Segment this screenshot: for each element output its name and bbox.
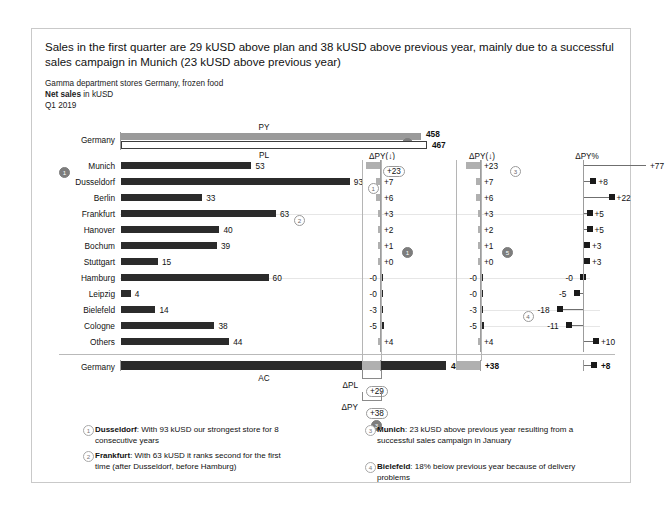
row-callout-marker-bielefeld[interactable]: 4 — [523, 305, 534, 323]
bar-actual-leipzig — [121, 290, 131, 297]
bar-actual-stuttgart — [121, 258, 158, 265]
value-actual-bielefeld: 14 — [159, 305, 168, 315]
footnote-marker-4[interactable]: 4 — [365, 462, 376, 473]
pin-dot-frankfurt — [587, 210, 593, 216]
bar-actual-bochum — [121, 242, 217, 249]
bar-actual-bielefeld — [121, 306, 155, 313]
value-variance-1-dusseldorf: +7 — [484, 177, 493, 187]
value-variance-0-berlin: +6 — [384, 193, 393, 203]
value-variance-1-cologne: -5 — [470, 321, 477, 331]
value-actual-stuttgart: 15 — [162, 257, 171, 267]
row-label-munich: Munich — [88, 161, 115, 171]
value-variance-1-stuttgart: +0 — [484, 257, 493, 267]
axis-pct-1 — [583, 176, 584, 192]
value-pct-berlin: +22 — [617, 193, 631, 203]
pin-dot-total — [591, 362, 597, 368]
delta-py-header-2: ΔPY(↓) — [469, 152, 495, 161]
total-row-label-top: Germany — [81, 135, 115, 145]
value-pct-frankfurt: +5 — [595, 209, 604, 219]
value-variance-0-leipzig: -0 — [370, 289, 377, 299]
value-variance-1-munich: +23 — [484, 161, 498, 171]
row-label-frankfurt: Frankfurt — [82, 209, 115, 219]
value-variance-0-hanover: +2 — [384, 225, 393, 235]
value-variance-0-hamburg: -0 — [370, 273, 377, 283]
axis-pct-total — [583, 360, 584, 371]
footnote-marker-3[interactable]: 3 — [365, 425, 376, 436]
connector-delta-pl-right — [381, 160, 382, 361]
bracket-delta-py — [362, 392, 382, 401]
row-label-bochum: Bochum — [85, 241, 115, 251]
value-pct-leipzig: -5 — [559, 289, 566, 299]
bar-actual-munich — [121, 162, 251, 169]
value-variance-1-frankfurt: +3 — [484, 209, 493, 219]
row-label-berlin: Berlin — [94, 193, 115, 203]
pin-dot-hanover — [587, 226, 593, 232]
value-variance-1-bochum: +1 — [484, 241, 493, 251]
bar-plan-total — [121, 141, 427, 149]
axis-pct-7 — [583, 272, 584, 288]
value-actual-frankfurt: 63 — [280, 209, 289, 219]
pin-dot-bielefeld — [557, 306, 563, 312]
chart-frame: Sales in the first quarter are 29 kUSD a… — [31, 28, 631, 483]
row-label-hanover: Hanover — [84, 225, 115, 235]
axis-pct-11 — [583, 336, 584, 352]
connector-delta-pl-left — [362, 160, 363, 361]
variance-col2-mid-callout-marker[interactable]: 5 — [502, 241, 513, 259]
row-label-leipzig: Leipzig — [89, 289, 115, 299]
delta-py-total-highlight: +23 — [383, 160, 405, 178]
pin-dot-dusseldorf — [590, 178, 596, 184]
variance-col2-top-callout-marker[interactable]: 3 — [510, 160, 521, 178]
value-variance-1-leipzig: -0 — [470, 289, 477, 299]
value-variance-0-stuttgart: +0 — [384, 257, 393, 267]
footnote-text-3: Munich: 23 kUSD above previous year resu… — [377, 425, 587, 446]
value-variance-0-others: +4 — [384, 337, 393, 347]
pin-dot-cologne — [566, 322, 572, 328]
value-variance-0-bochum: +1 — [384, 241, 393, 251]
value-actual-hamburg: 60 — [273, 273, 282, 283]
row-callout-marker-frankfurt[interactable]: 2 — [294, 209, 305, 227]
footnote-subject-4: Bielefeld — [377, 462, 410, 471]
row-label-cologne: Cologne — [84, 321, 115, 331]
value-variance-1-bielefeld: -3 — [470, 305, 477, 315]
value-pct-hanover: +5 — [595, 225, 604, 235]
value-actual-bochum: 39 — [221, 241, 230, 251]
pin-dot-stuttgart — [584, 258, 590, 264]
axis-pct-6 — [583, 256, 584, 272]
row-label-dusseldorf: Dusseldorf — [75, 177, 115, 187]
row-label-stuttgart: Stuttgart — [84, 257, 115, 267]
value-pct-dusseldorf: +8 — [598, 177, 607, 187]
value-variance-1-hanover: +2 — [484, 225, 493, 235]
bar-actual-hamburg — [121, 274, 269, 281]
value-actual-cologne: 38 — [218, 321, 227, 331]
delta-pl-bracket-label: ΔPL — [343, 381, 358, 390]
pin-dot-leipzig — [574, 290, 580, 296]
pin-dot-others — [593, 338, 599, 344]
axis-pct-2 — [583, 192, 584, 208]
bar-actual-berlin — [121, 194, 202, 201]
pin-dot-berlin — [609, 194, 615, 200]
axis-pct-5 — [583, 240, 584, 256]
axis-pct-0 — [583, 160, 584, 176]
bar-actual-dusseldorf — [121, 178, 350, 185]
total-row-label-bottom: Germany — [81, 362, 115, 372]
row-callout-marker-munich[interactable]: 1 — [59, 161, 70, 179]
value-variance-0-dusseldorf: +7 — [384, 177, 393, 187]
bar-variance-pos-1-munich — [466, 162, 480, 169]
footnote-text-1: Dusseldorf: With 93 kUSD our strongest s… — [95, 425, 295, 446]
delta-py-total-value: +38 — [485, 361, 499, 371]
py-total-value: 458 — [426, 129, 440, 139]
variance-col1-callout-marker[interactable]: 1 — [402, 241, 413, 259]
ac-series-label: AC — [258, 374, 269, 383]
value-actual-hanover: 40 — [223, 225, 232, 235]
bar-previous-year-total — [121, 133, 421, 140]
pin-line-munich — [584, 165, 646, 166]
footnote-text-4: Bielefeld: 18% below previous year becau… — [377, 462, 587, 483]
footnote-subject-1: Dusseldorf — [95, 425, 137, 434]
bar-delta-pl-total — [362, 361, 380, 370]
footnote-body-3: : 23 kUSD above previous year resulting … — [377, 425, 573, 445]
footnote-marker-1[interactable]: 1 — [83, 425, 94, 436]
bar-actual-hanover — [121, 226, 219, 233]
bar-actual-frankfurt — [121, 210, 276, 217]
footnote-marker-2[interactable]: 2 — [83, 451, 94, 462]
value-variance-1-hamburg: -0 — [470, 273, 477, 283]
